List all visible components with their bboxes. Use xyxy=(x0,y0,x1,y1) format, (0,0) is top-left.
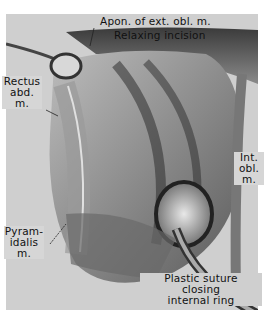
label-line: m. xyxy=(2,98,42,109)
label-pyramidalis: Pyram- idalis m. xyxy=(4,226,44,259)
illustration-plate xyxy=(6,14,258,310)
label-line: internal ring xyxy=(140,295,262,306)
label-apon-ext-obl: Apon. of ext. obl. m. xyxy=(100,16,211,27)
surgical-drawing xyxy=(6,14,258,310)
label-rectus-abd: Rectus abd. m. xyxy=(2,76,42,109)
label-int-obl: Int. obl. m. xyxy=(234,152,264,185)
label-line: m. xyxy=(234,174,264,185)
label-line: m. xyxy=(4,248,44,259)
label-plastic-suture: Plastic suture closing internal ring xyxy=(140,273,262,306)
label-relaxing-incision: Relaxing incision xyxy=(114,30,206,41)
